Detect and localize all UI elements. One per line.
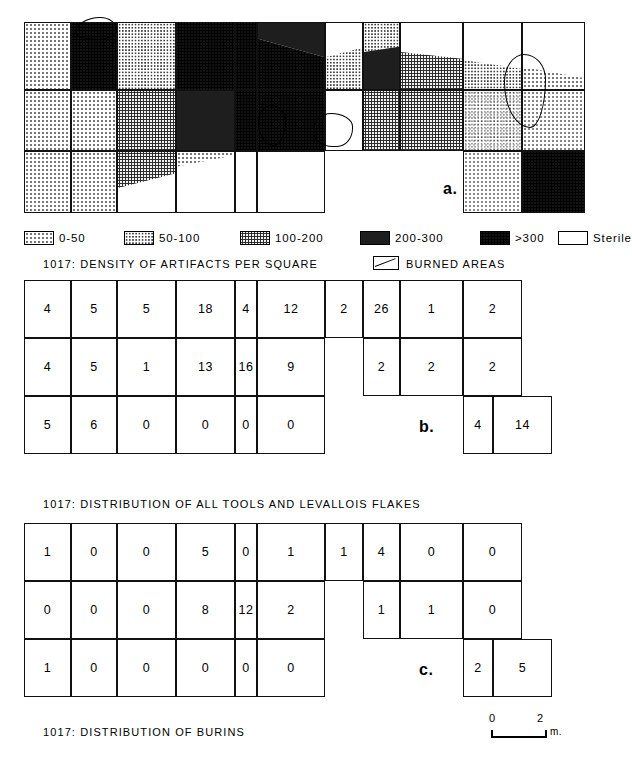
- table-cell: 0: [71, 639, 117, 697]
- panel-c-letter: c.: [419, 661, 433, 679]
- panel-c-caption: 1017: DISTRIBUTION OF BURINS: [43, 726, 245, 738]
- scale-tick-right: [545, 730, 547, 737]
- table-cell: 0: [24, 581, 71, 639]
- table-cell: 2: [257, 581, 325, 639]
- table-cell: 0: [176, 639, 235, 697]
- table-cell: 1: [257, 523, 325, 581]
- table-cell: 1: [24, 639, 71, 697]
- table-cell: 5: [493, 639, 552, 697]
- scale-bar: 0 2 m.: [489, 712, 579, 748]
- table-cell: 0: [257, 639, 325, 697]
- table-cell: 1: [400, 581, 463, 639]
- table-cell: 0: [400, 523, 463, 581]
- table-cell: 2: [463, 639, 493, 697]
- table-cell: 12: [235, 581, 257, 639]
- scale-label-two: 2: [537, 712, 544, 724]
- table-cell: 0: [117, 581, 176, 639]
- table-cell: 5: [176, 523, 235, 581]
- table-cell: 0: [235, 523, 257, 581]
- scale-unit-label: m.: [550, 726, 562, 737]
- scale-bar-line: [491, 736, 547, 738]
- table-cell: 0: [235, 639, 257, 697]
- table-cell: 1: [325, 523, 363, 581]
- table-cell: 0: [117, 523, 176, 581]
- table-cell: 0: [71, 581, 117, 639]
- table-cell: 1: [24, 523, 71, 581]
- table-cell: 8: [176, 581, 235, 639]
- table-cell: 1: [363, 581, 400, 639]
- table-cell: 0: [463, 523, 522, 581]
- table-cell: 0: [71, 523, 117, 581]
- table-cell: 0: [463, 581, 522, 639]
- scale-label-zero: 0: [489, 712, 496, 724]
- panel-c-burins-grid: 1 0 0 5 0 1 1 4 0 0 0 0 0 8 12 2 1 1 0 1…: [0, 0, 609, 720]
- scale-tick-left: [491, 730, 493, 737]
- table-cell: 0: [117, 639, 176, 697]
- table-cell: 4: [363, 523, 400, 581]
